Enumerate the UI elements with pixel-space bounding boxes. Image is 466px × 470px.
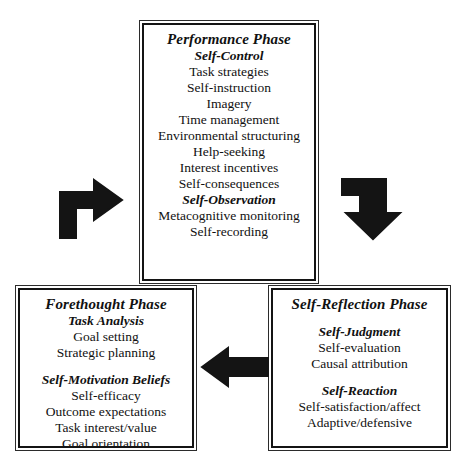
arrow-performance-to-reflection-icon [340, 177, 406, 241]
performance-phase-inner: Performance Phase Self-Control Task stra… [142, 23, 316, 281]
self-regulation-cycle-diagram: Performance Phase Self-Control Task stra… [0, 0, 466, 470]
performance-item: Self-consequences [144, 176, 314, 192]
performance-item: Imagery [144, 96, 314, 112]
forethought-phase-inner: Forethought Phase Task Analysis Goal set… [18, 288, 194, 448]
section-spacer [273, 372, 446, 383]
section-spacer [273, 313, 446, 324]
forethought-phase-title: Forethought Phase [20, 290, 192, 313]
performance-item: Self-instruction [144, 80, 314, 96]
performance-item: Self-recording [144, 224, 314, 240]
self-observation-heading: Self-Observation [144, 192, 314, 208]
self-reflection-phase-box: Self-Reflection Phase Self-Judgment Self… [268, 285, 451, 451]
self-reflection-phase-title: Self-Reflection Phase [273, 290, 446, 313]
self-reflection-phase-inner: Self-Reflection Phase Self-Judgment Self… [271, 288, 448, 448]
forethought-item: Outcome expectations [20, 404, 192, 420]
forethought-item: Goal orientation [20, 436, 192, 448]
forethought-phase-box: Forethought Phase Task Analysis Goal set… [15, 285, 197, 451]
reflection-item: Self-satisfaction/affect [273, 399, 446, 415]
self-judgment-heading: Self-Judgment [273, 324, 446, 340]
performance-item: Metacognitive monitoring [144, 208, 314, 224]
performance-item: Time management [144, 112, 314, 128]
performance-item: Help-seeking [144, 144, 314, 160]
forethought-item: Self-efficacy [20, 388, 192, 404]
performance-phase-title: Performance Phase [144, 25, 314, 48]
performance-phase-box: Performance Phase Self-Control Task stra… [139, 20, 319, 284]
performance-item: Interest incentives [144, 160, 314, 176]
self-reaction-heading: Self-Reaction [273, 383, 446, 399]
section-spacer [20, 361, 192, 372]
performance-item: Environmental structuring [144, 128, 314, 144]
reflection-item: Self-evaluation [273, 340, 446, 356]
reflection-item: Causal attribution [273, 356, 446, 372]
self-control-heading: Self-Control [144, 48, 314, 64]
reflection-item: Adaptive/defensive [273, 415, 446, 431]
forethought-item: Goal setting [20, 329, 192, 345]
task-analysis-heading: Task Analysis [20, 313, 192, 329]
self-motivation-beliefs-heading: Self-Motivation Beliefs [20, 372, 192, 388]
forethought-item: Task interest/value [20, 420, 192, 436]
forethought-item: Strategic planning [20, 345, 192, 361]
performance-item: Task strategies [144, 64, 314, 80]
arrow-forethought-to-performance-icon [58, 178, 124, 240]
arrow-reflection-to-forethought-icon [200, 345, 270, 389]
